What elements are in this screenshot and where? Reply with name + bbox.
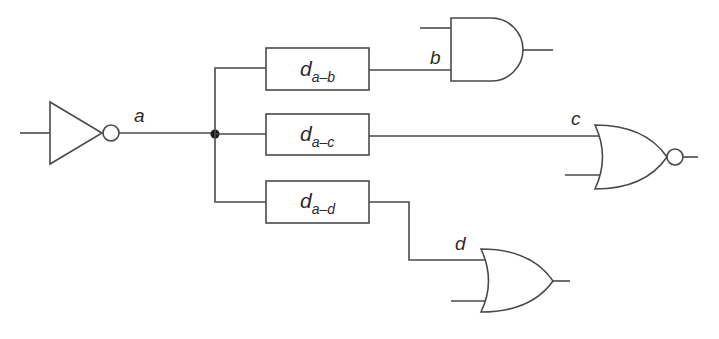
fanout-bus — [215, 68, 266, 202]
nor-bubble — [667, 149, 683, 165]
delay-box-a-d: da–d — [266, 181, 369, 223]
signal-label-b: b — [430, 47, 441, 68]
inverter-triangle — [50, 102, 102, 164]
nor-gate — [565, 125, 698, 189]
and-body — [451, 18, 523, 81]
signal-label-d: d — [455, 233, 467, 254]
circuit-svg: a da–b da–c da–d b c — [0, 0, 719, 339]
inverter-gate — [20, 102, 119, 164]
signal-label-c: c — [571, 108, 581, 129]
circuit-diagram: a da–b da–c da–d b c — [0, 0, 719, 339]
delay-box-a-c: da–c — [266, 114, 369, 155]
or-gate — [451, 249, 570, 312]
inverter-bubble — [103, 125, 119, 141]
or-body — [481, 249, 553, 312]
nor-body — [595, 125, 667, 189]
signal-label-a: a — [134, 105, 145, 126]
delay-box-a-b: da–b — [266, 48, 369, 90]
wire-d — [369, 202, 486, 260]
